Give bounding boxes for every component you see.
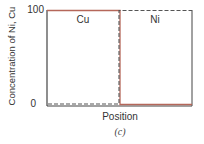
diffusion-couple-figure: Concentration of Ni, Cu 100 0 Cu Ni Posi… [0,0,204,144]
y-tick-0: 0 [22,98,36,109]
cu-region-label: Cu [68,14,98,25]
ni-region-label: Ni [140,14,170,25]
x-axis-label: Position [95,111,145,122]
plot-area [0,0,204,144]
y-axis-label: Concentration of Ni, Cu [6,6,18,106]
figure-caption: (c) [108,126,132,137]
y-tick-100: 100 [22,4,44,15]
